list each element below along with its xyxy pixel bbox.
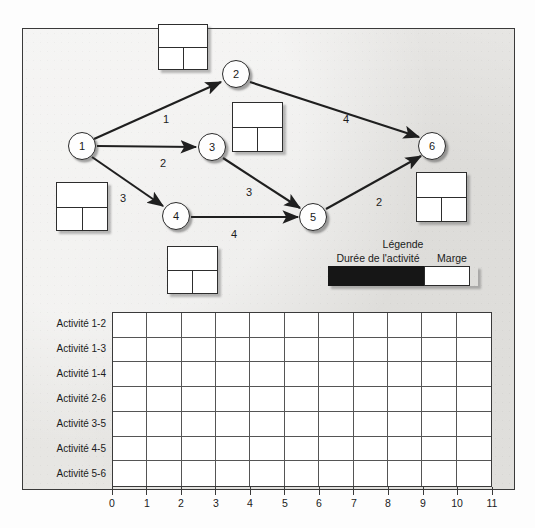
gantt-cell[interactable] [422,437,456,462]
axis-tick [319,487,320,495]
gantt-cell[interactable] [319,313,353,338]
gantt-cell[interactable] [147,313,181,338]
gantt-cell[interactable] [422,412,456,437]
gantt-cell[interactable] [354,412,388,437]
gantt-row-label: Activité 3-5 [30,418,106,429]
axis-tick-label: 4 [240,497,260,509]
gantt-cell[interactable] [147,437,181,462]
gantt-cell[interactable] [457,387,491,412]
gantt-cell[interactable] [388,437,422,462]
gantt-cell[interactable] [354,313,388,338]
gantt-cell[interactable] [285,362,319,387]
gantt-cell[interactable] [182,313,216,338]
gantt-cell[interactable] [354,437,388,462]
gantt-cell[interactable] [285,437,319,462]
gantt-cell[interactable] [319,461,353,486]
gantt-cell[interactable] [285,412,319,437]
gantt-cell[interactable] [422,338,456,363]
axis-tick [353,487,354,495]
axis-tick-label: 0 [102,497,122,509]
gantt-cell[interactable] [319,387,353,412]
gantt-cell[interactable] [147,362,181,387]
gantt-cell[interactable] [113,387,147,412]
gantt-cell[interactable] [182,338,216,363]
gantt-grid[interactable] [112,312,492,487]
gantt-cell[interactable] [422,313,456,338]
axis-tick-label: 3 [206,497,226,509]
gantt-cell[interactable] [216,437,250,462]
worksheet-page: 1 2 3 4 5 6 1 2 3 4 3 4 2 [0,0,535,528]
gantt-cell[interactable] [147,387,181,412]
gantt-cell[interactable] [388,461,422,486]
axis-tick [284,487,285,495]
gantt-cell[interactable] [216,338,250,363]
gantt-cell[interactable] [147,461,181,486]
gantt-cell[interactable] [457,338,491,363]
gantt-cell[interactable] [147,338,181,363]
gantt-cell[interactable] [285,338,319,363]
gantt-cell[interactable] [182,437,216,462]
axis-tick [215,487,216,495]
gantt-cell[interactable] [457,461,491,486]
gantt-cell[interactable] [182,461,216,486]
gantt-cell[interactable] [319,362,353,387]
gantt-cell[interactable] [113,461,147,486]
gantt-cell[interactable] [388,412,422,437]
gantt-cell[interactable] [354,338,388,363]
gantt-cell[interactable] [354,461,388,486]
gantt-cell[interactable] [388,362,422,387]
gantt-cell[interactable] [388,387,422,412]
gantt-cell[interactable] [457,313,491,338]
gantt-cell[interactable] [216,387,250,412]
gantt-cell[interactable] [388,313,422,338]
gantt-cell[interactable] [113,412,147,437]
gantt-row-label: Activité 1-3 [30,343,106,354]
gantt-cell[interactable] [250,338,284,363]
gantt-cell[interactable] [319,437,353,462]
gantt-cell[interactable] [457,437,491,462]
gantt-cell[interactable] [182,362,216,387]
gantt-cell[interactable] [216,461,250,486]
gantt-cell[interactable] [250,313,284,338]
gantt-cell[interactable] [216,313,250,338]
axis-tick [112,487,113,495]
axis-tick [388,487,389,495]
axis-tick-label: 2 [171,497,191,509]
gantt-cell[interactable] [216,412,250,437]
gantt-cell[interactable] [250,412,284,437]
gantt-cell[interactable] [216,362,250,387]
gantt-cell[interactable] [147,412,181,437]
gantt-row-label: Activité 4-5 [30,443,106,454]
gantt-cell[interactable] [250,461,284,486]
axis-tick [423,487,424,495]
gantt-cell[interactable] [182,412,216,437]
gantt-cell[interactable] [285,461,319,486]
gantt-cell[interactable] [457,412,491,437]
axis-tick-label: 10 [447,497,467,509]
gantt-cell[interactable] [113,338,147,363]
axis-tick [146,487,147,495]
gantt-cell[interactable] [113,362,147,387]
gantt-cell[interactable] [250,387,284,412]
gantt-cell[interactable] [354,387,388,412]
axis-tick-label: 9 [413,497,433,509]
gantt-cell[interactable] [422,461,456,486]
gantt-cell[interactable] [457,362,491,387]
axis-tick-label: 11 [482,497,502,509]
gantt-cell[interactable] [113,313,147,338]
gantt-worksheet: Activité 1-2 Activité 1-3 Activité 1-4 A… [0,0,535,528]
gantt-cell[interactable] [422,387,456,412]
gantt-cell[interactable] [319,412,353,437]
gantt-cell[interactable] [113,437,147,462]
gantt-cell[interactable] [285,387,319,412]
gantt-cell[interactable] [354,362,388,387]
gantt-cell[interactable] [285,313,319,338]
gantt-cell[interactable] [388,338,422,363]
gantt-cell[interactable] [182,387,216,412]
axis-tick [457,487,458,495]
gantt-cell[interactable] [319,338,353,363]
axis-tick [181,487,182,495]
gantt-cell[interactable] [422,362,456,387]
gantt-cell[interactable] [250,437,284,462]
gantt-cell[interactable] [250,362,284,387]
